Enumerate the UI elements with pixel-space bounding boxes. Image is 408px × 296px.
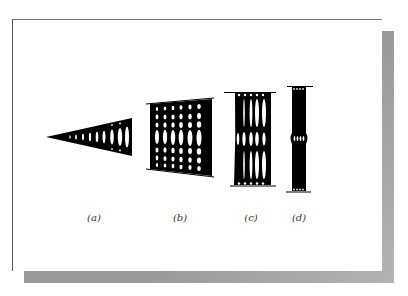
figure-canvas [0,0,408,296]
panel-a-caption: (a) [87,212,101,223]
panel-d-structure [286,87,313,193]
panel-b-structure [146,98,214,177]
panel-d-caption: (d) [292,212,306,223]
panel-c-structure [224,93,276,187]
panel-a-structure [46,118,132,156]
panel-c-caption: (c) [244,212,257,223]
panel-b-caption: (b) [173,212,187,223]
